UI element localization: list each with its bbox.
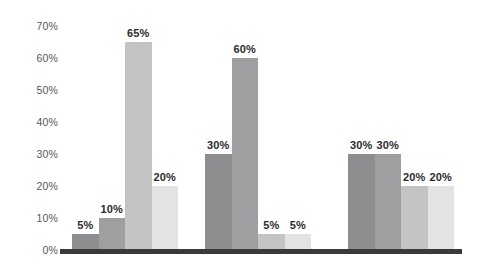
bar[interactable] (258, 234, 285, 250)
bar[interactable] (205, 154, 232, 250)
bar-value-label: 5% (263, 219, 279, 231)
bar-value-label: 20% (430, 171, 452, 183)
bar-value-label: 30% (207, 139, 229, 151)
bar-value-label: 20% (154, 171, 176, 183)
bar[interactable] (152, 186, 179, 250)
bar-value-label: 30% (350, 139, 372, 151)
bar-slot: 20% (152, 22, 179, 250)
bar-chart: 0%10%20%30%40%50%60%70% 5%10%65%20%30%60… (0, 0, 487, 273)
bar-slot: 5% (285, 22, 312, 250)
bar[interactable] (232, 58, 259, 250)
y-axis-tick-label: 30% (2, 148, 58, 160)
bar-value-label: 30% (377, 139, 399, 151)
bar-slot: 30% (348, 22, 375, 250)
bar-slot: 60% (232, 22, 259, 250)
bar-slot: 30% (205, 22, 232, 250)
bar-slot: 20% (401, 22, 428, 250)
y-axis-tick-label: 0% (2, 244, 58, 256)
y-axis-tick-label: 40% (2, 116, 58, 128)
bar-group: 30%60%5%5% (205, 22, 311, 250)
bar[interactable] (348, 154, 375, 250)
y-axis-tick-label: 70% (2, 20, 58, 32)
bar-value-label: 20% (403, 171, 425, 183)
bar[interactable] (99, 218, 126, 250)
bar[interactable] (428, 186, 455, 250)
bar-value-label: 5% (290, 219, 306, 231)
plot-area: 5%10%65%20%30%60%5%5%30%30%20%20% (60, 0, 462, 273)
bar-slot: 20% (428, 22, 455, 250)
bar-slot: 65% (125, 22, 152, 250)
bar[interactable] (401, 186, 428, 250)
bar-value-label: 5% (77, 219, 93, 231)
bar-value-label: 60% (234, 43, 256, 55)
bar-slot: 30% (375, 22, 402, 250)
bar[interactable] (285, 234, 312, 250)
bar[interactable] (125, 42, 152, 250)
y-axis-tick-label: 10% (2, 212, 58, 224)
bar[interactable] (375, 154, 402, 250)
bar-slot: 10% (99, 22, 126, 250)
bar-group: 5%10%65%20% (72, 22, 178, 250)
y-axis-tick-label: 50% (2, 84, 58, 96)
y-axis-tick-label: 60% (2, 52, 58, 64)
bar-value-label: 65% (127, 27, 149, 39)
bar-slot: 5% (258, 22, 285, 250)
x-axis-baseline (60, 249, 462, 254)
bar-slot: 5% (72, 22, 99, 250)
bar-group: 30%30%20%20% (348, 22, 454, 250)
y-axis-tick-label: 20% (2, 180, 58, 192)
bar-value-label: 10% (101, 203, 123, 215)
y-axis: 0%10%20%30%40%50%60%70% (0, 0, 58, 273)
bar[interactable] (72, 234, 99, 250)
